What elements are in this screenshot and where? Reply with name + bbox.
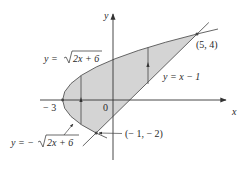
- svg-text:2x + 6: 2x + 6: [73, 53, 99, 64]
- point-5-4: [196, 33, 199, 36]
- shaded-region: [63, 34, 197, 133]
- label-point-neg1-neg2: (− 1, − 2): [125, 128, 163, 140]
- label-lower-parabola: y = − 2x + 6: [10, 135, 79, 148]
- x-axis-label: x: [231, 106, 237, 117]
- label-line: y = x − 1: [162, 71, 200, 82]
- tick-label-neg3: − 3: [43, 102, 56, 113]
- label-point-5-4: (5, 4): [196, 39, 218, 51]
- point-neg3-0: [61, 99, 64, 102]
- y-axis-label: y: [103, 10, 109, 21]
- leader-lower-curve: [64, 124, 73, 135]
- region-diagram: y x 0 − 3 y = 2x + 6 y = − 2x + 6 y = x …: [0, 0, 248, 169]
- leader-point-neg1-neg2: [99, 133, 122, 134]
- point-neg1-neg2: [95, 132, 98, 135]
- svg-text:y = −: y = −: [10, 137, 34, 148]
- svg-text:2x + 6: 2x + 6: [47, 137, 73, 148]
- origin-label: 0: [103, 102, 108, 113]
- svg-text:y =: y =: [43, 53, 58, 64]
- label-upper-parabola: y = 2x + 6: [43, 51, 102, 64]
